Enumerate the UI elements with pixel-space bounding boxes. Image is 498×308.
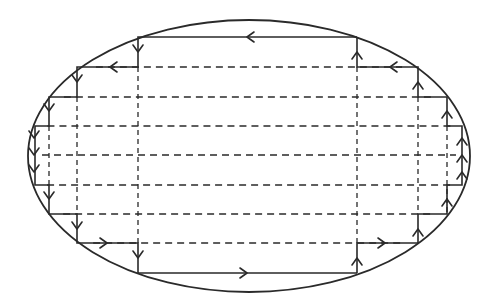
ellipse-boundary xyxy=(28,20,470,292)
ellipse-staircase-diagram xyxy=(0,0,498,308)
dashed-grid xyxy=(42,67,456,243)
arrow-down-icon xyxy=(29,165,39,172)
arrow-down-icon xyxy=(29,148,39,155)
ellipse-outline xyxy=(28,20,470,292)
diagram-svg xyxy=(0,0,498,308)
